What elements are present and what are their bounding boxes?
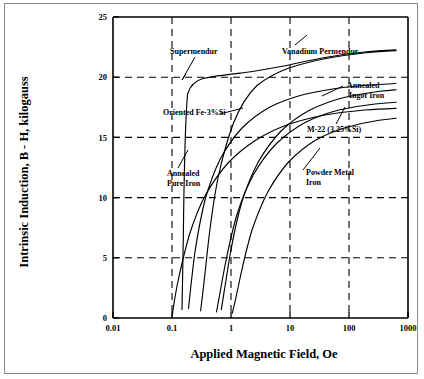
xtick-label-10: 10 — [286, 323, 295, 333]
leader-vanadium-permendur — [295, 35, 307, 45]
xtick-label-0.01: 0.01 — [106, 323, 121, 333]
ytick-label-15: 15 — [99, 133, 108, 143]
curve-annealed-pure-iron — [189, 84, 397, 309]
series-label-powder-metal-iron-line1: Powder Metal — [306, 168, 355, 177]
grid-lines — [113, 17, 408, 318]
ytick-label-20: 20 — [99, 72, 108, 82]
plot-frame — [113, 17, 408, 318]
xtick-label-1000: 1000 — [400, 323, 417, 333]
series-label-annealed-pure-iron-line2: Pure Iron — [167, 179, 201, 188]
series-label-supermendur: Supermendur — [170, 47, 218, 56]
curve-oriented-fe3si — [172, 108, 396, 316]
series-label-oriented-fe3si: Oriented Fe-3%Si — [163, 108, 226, 117]
series-label-annealed-ingot-iron-line2: Ingot Iron — [349, 91, 385, 100]
series-label-annealed-pure-iron-line1: Annealed — [167, 169, 200, 178]
leader-powder-metal-iron — [303, 148, 320, 170]
y-axis-ticks — [113, 17, 119, 318]
figure-container: 0.01 0.1 1 10 100 1000 25 20 15 10 5 0 S… — [0, 0, 424, 379]
series-label-m22: M-22 (3.25%Si) — [307, 125, 362, 134]
series-label-powder-metal-iron-line2: Iron — [306, 178, 322, 187]
leader-annealed-pure-iron — [178, 150, 188, 168]
y-axis-title: Intrinsic Induction, B - H, kilogauss — [17, 76, 31, 268]
curve-powder-metal-iron — [232, 118, 396, 313]
magnetization-curves-chart: 0.01 0.1 1 10 100 1000 25 20 15 10 5 0 S… — [0, 0, 424, 379]
ytick-label-25: 25 — [99, 12, 108, 22]
xtick-label-0.1: 0.1 — [167, 323, 178, 333]
xtick-label-1: 1 — [229, 323, 233, 333]
ytick-label-10: 10 — [99, 193, 108, 203]
series-label-vanadium-permendur: Vanadium Permendur — [282, 47, 359, 56]
ytick-label-0: 0 — [103, 313, 107, 323]
leader-annealed-ingot-iron — [322, 86, 343, 96]
x-axis-ticks — [113, 312, 408, 318]
xtick-label-100: 100 — [343, 323, 356, 333]
ytick-label-5: 5 — [103, 253, 107, 263]
x-axis-title: Applied Magnetic Field, Oe — [190, 347, 338, 361]
series-label-annealed-ingot-iron-line1: Annealed — [347, 81, 380, 90]
